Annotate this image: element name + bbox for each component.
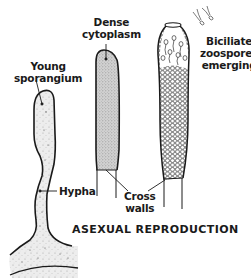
label-biciliate-line-2: zoospores: [200, 47, 251, 59]
free-zoospores: [193, 6, 214, 26]
label-dense-line-1: Dense: [82, 16, 141, 28]
label-young-line-2: sporangium: [14, 72, 82, 84]
label-dense-line-2: cytoplasm: [82, 28, 141, 40]
label-biciliate-line-3: emerging: [200, 59, 251, 71]
label-cross-line-2: walls: [124, 202, 156, 214]
figure-title: ASEXUAL REPRODUCTION: [72, 224, 239, 236]
label-young-sporangium: Young sporangium: [14, 60, 82, 84]
dense-cytoplasm-sporangium: [96, 50, 119, 198]
label-biciliate-zoospores: Biciliate zoospores emerging: [200, 35, 251, 71]
label-hypha: Hypha: [59, 185, 96, 197]
label-cross-walls: Cross walls: [124, 190, 156, 214]
label-young-line-1: Young: [14, 60, 82, 72]
label-biciliate-line-1: Biciliate: [200, 35, 251, 47]
asexual-reproduction-diagram: Young sporangium Dense cytoplasm Bicilia…: [0, 0, 251, 278]
label-dense-cytoplasm: Dense cytoplasm: [82, 16, 141, 40]
label-cross-line-1: Cross: [124, 190, 156, 202]
